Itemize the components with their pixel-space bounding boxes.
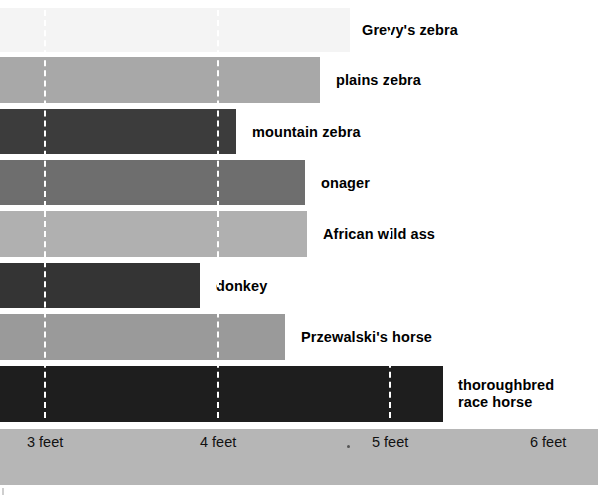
- bar[interactable]: [0, 109, 236, 154]
- bar-row: donkey: [0, 263, 609, 308]
- bar-label: onager: [321, 174, 370, 191]
- bar[interactable]: [0, 366, 443, 422]
- bar-row: thoroughbred race horse: [0, 366, 609, 422]
- bar[interactable]: [0, 211, 307, 257]
- x-axis-strip: 3 feet 4 feet 5 feet 6 feet: [0, 429, 598, 485]
- axis-tick-label-4-feet: 4 feet: [200, 434, 236, 450]
- bar-chart: Grevy's zebra plains zebra mountain zebr…: [0, 0, 609, 498]
- axis-tick-label-6-feet: 6 feet: [530, 434, 566, 450]
- bar[interactable]: [0, 8, 350, 52]
- axis-tick-label-3-feet: 3 feet: [27, 434, 63, 450]
- bar-row: onager: [0, 160, 609, 205]
- bar-row: plains zebra: [0, 57, 609, 103]
- bar[interactable]: [0, 160, 305, 205]
- page-edge-speck: [2, 488, 4, 495]
- axis-tick-dot: [347, 445, 350, 448]
- bar-label: mountain zebra: [252, 123, 361, 140]
- bar[interactable]: [0, 57, 320, 103]
- bar-row: Grevy's zebra: [0, 8, 609, 52]
- bar-label: thoroughbred race horse: [458, 377, 554, 410]
- bar-row: African wild ass: [0, 211, 609, 257]
- bar-label: African wild ass: [323, 226, 435, 243]
- bottom-margin: [0, 485, 609, 498]
- bar-label: donkey: [216, 277, 267, 294]
- bar-row: mountain zebra: [0, 109, 609, 154]
- bar-row: Przewalski's horse: [0, 314, 609, 360]
- bar[interactable]: [0, 314, 285, 360]
- axis-tick-label-5-feet: 5 feet: [372, 434, 408, 450]
- bar[interactable]: [0, 263, 200, 308]
- bar-label: plains zebra: [336, 72, 421, 89]
- plot-area: Grevy's zebra plains zebra mountain zebr…: [0, 0, 609, 428]
- bar-label: Grevy's zebra: [362, 22, 458, 39]
- bar-label: Przewalski's horse: [301, 329, 432, 346]
